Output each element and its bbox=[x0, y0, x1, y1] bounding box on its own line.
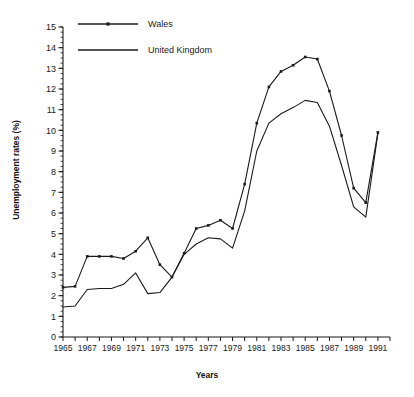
x-tick-label: 1975 bbox=[175, 343, 194, 353]
y-tick-label: 3 bbox=[51, 270, 56, 280]
x-tick-label: 1987 bbox=[320, 343, 339, 353]
y-tick-label: 2 bbox=[51, 291, 56, 301]
y-tick-label: 1 bbox=[51, 312, 56, 322]
series-marker bbox=[207, 224, 210, 227]
y-tick-label: 14 bbox=[46, 43, 56, 53]
y-tick-label: 10 bbox=[46, 126, 56, 136]
series-marker bbox=[74, 285, 77, 288]
series-marker bbox=[304, 56, 307, 59]
y-tick-label: 13 bbox=[46, 64, 56, 74]
x-tick-label: 1979 bbox=[223, 343, 242, 353]
legend bbox=[78, 22, 138, 50]
series-marker bbox=[268, 86, 271, 89]
plot-area: 0123456789101112131415 19651967196919711… bbox=[0, 0, 414, 397]
series-marker bbox=[328, 90, 331, 93]
series-marker bbox=[255, 122, 258, 125]
series-marker bbox=[280, 70, 283, 73]
y-tick-label: 9 bbox=[51, 146, 56, 156]
x-tick-label: 1967 bbox=[78, 343, 97, 353]
series-marker bbox=[219, 219, 222, 222]
series-marker bbox=[62, 286, 65, 289]
legend-marker bbox=[107, 22, 110, 25]
series-marker bbox=[86, 255, 89, 258]
series-marker bbox=[364, 201, 367, 204]
unemployment-line-chart: 0123456789101112131415 19651967196919711… bbox=[0, 0, 414, 397]
series-line-united-kingdom bbox=[63, 100, 378, 307]
series-marker bbox=[243, 183, 246, 186]
y-tick-label: 8 bbox=[51, 167, 56, 177]
series-marker bbox=[316, 58, 319, 61]
x-axis-title: Years bbox=[0, 370, 414, 380]
y-tick-label: 0 bbox=[51, 332, 56, 342]
y-tick-label: 15 bbox=[46, 22, 56, 32]
y-tick-label: 12 bbox=[46, 84, 56, 94]
x-tick-label: 1989 bbox=[344, 343, 363, 353]
legend-label-wales: Wales bbox=[148, 19, 173, 29]
series-marker bbox=[122, 257, 125, 260]
series-marker bbox=[340, 134, 343, 137]
series-marker bbox=[292, 64, 295, 67]
x-tick-label: 1977 bbox=[199, 343, 218, 353]
series-marker bbox=[110, 255, 113, 258]
x-tick-label: 1973 bbox=[150, 343, 169, 353]
x-tick-label: 1983 bbox=[272, 343, 291, 353]
x-tick-label: 1971 bbox=[126, 343, 145, 353]
x-tick-label: 1965 bbox=[54, 343, 73, 353]
y-tick-label: 5 bbox=[51, 229, 56, 239]
y-axis-title: Unemployment rates (%) bbox=[11, 110, 21, 230]
y-tick-label: 7 bbox=[51, 188, 56, 198]
data-series bbox=[62, 56, 379, 307]
y-tick-label: 4 bbox=[51, 250, 56, 260]
series-marker bbox=[231, 227, 234, 230]
axis-ticks bbox=[59, 27, 391, 341]
x-tick-label: 1991 bbox=[368, 343, 387, 353]
x-axis-tick-labels: 1965196719691971197319751977197919811983… bbox=[54, 343, 388, 353]
legend-label-united-kingdom: United Kingdom bbox=[148, 45, 212, 55]
y-axis-tick-labels: 0123456789101112131415 bbox=[46, 22, 56, 342]
y-tick-label: 6 bbox=[51, 208, 56, 218]
series-marker bbox=[352, 187, 355, 190]
series-marker bbox=[134, 250, 137, 253]
series-marker bbox=[146, 237, 149, 240]
y-tick-label: 11 bbox=[47, 105, 56, 115]
series-marker bbox=[159, 263, 162, 266]
axes bbox=[63, 27, 390, 337]
x-tick-label: 1969 bbox=[102, 343, 121, 353]
x-tick-label: 1985 bbox=[296, 343, 315, 353]
x-tick-label: 1981 bbox=[247, 343, 266, 353]
series-marker bbox=[98, 255, 101, 258]
series-marker bbox=[195, 227, 198, 230]
